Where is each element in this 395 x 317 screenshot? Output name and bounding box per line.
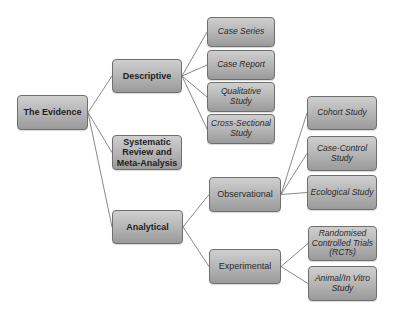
connector-root-to-analytical (88, 113, 112, 228)
node-label-line: (RCTs) (312, 248, 373, 258)
node-label: Cohort Study (317, 108, 367, 118)
connector-analytical-to-observational (183, 195, 209, 228)
node-label: Experimental (219, 261, 272, 271)
node-label-line: Meta-Analysis (117, 158, 178, 168)
node-animal-in-vitro-study: Animal/In Vitro Study (308, 266, 377, 301)
node-analytical: Analytical (112, 210, 183, 244)
connector-analytical-to-experimental (183, 227, 209, 267)
connector-experimental-to-rct (281, 244, 308, 267)
node-label: Descriptive (123, 71, 172, 81)
node-label: Case Series (218, 27, 264, 37)
connector-observational-to-case_control (281, 154, 307, 195)
node-the-evidence: The Evidence (17, 95, 88, 130)
node-case-series: Case Series (207, 17, 275, 47)
connector-experimental-to-animal (281, 267, 308, 284)
node-ecological-study: Ecological Study (307, 175, 377, 210)
node-label: Observational (217, 189, 273, 199)
node-label-line: Study (221, 97, 261, 107)
node-experimental: Experimental (209, 249, 281, 284)
evidence-hierarchy-diagram: The Evidence Descriptive Systematic Revi… (0, 0, 395, 317)
node-case-control-study: Case-Control Study (307, 136, 377, 171)
connector-observational-to-cohort (281, 113, 307, 195)
connector-observational-to-ecological (281, 193, 307, 195)
node-qualitative-study: Qualitative Study (207, 82, 275, 112)
node-label: Case Report (217, 60, 265, 70)
connector-descriptive-to-case_series (182, 32, 207, 76)
node-case-report: Case Report (207, 50, 275, 80)
node-label: Ecological Study (311, 188, 374, 198)
node-descriptive: Descriptive (112, 59, 182, 93)
node-randomised-controlled-trials: Randomised Controlled Trials (RCTs) (308, 226, 377, 261)
node-label-line: Systematic (117, 137, 178, 147)
node-cohort-study: Cohort Study (307, 96, 377, 130)
connector-descriptive-to-cross_sectional (182, 76, 207, 129)
node-label-line: Study (315, 284, 370, 294)
node-systematic-review: Systematic Review and Meta-Analysis (112, 135, 182, 170)
node-observational: Observational (209, 177, 281, 212)
connector-descriptive-to-qualitative (182, 76, 207, 97)
node-label-line: Study (317, 154, 367, 164)
connector-root-to-systematic (88, 113, 112, 153)
node-label-line: Review and (117, 147, 178, 157)
node-label: The Evidence (23, 107, 81, 117)
node-label: Analytical (126, 222, 169, 232)
node-label-line: Study (211, 129, 271, 139)
node-cross-sectional-study: Cross-Sectional Study (207, 114, 275, 144)
connector-descriptive-to-case_report (182, 65, 207, 76)
connector-root-to-descriptive (88, 76, 112, 113)
